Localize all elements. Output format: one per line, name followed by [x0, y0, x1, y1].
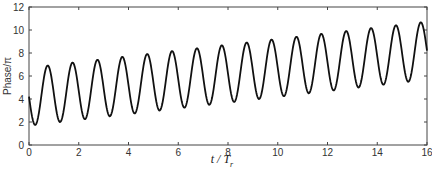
- phase-chart: 0246810121416 024681012 Phase/π t / Tr: [0, 0, 432, 173]
- x-axis-label-main: t / T: [211, 152, 232, 166]
- x-tick-label: 6: [175, 147, 181, 158]
- x-axis-label-subscript: r: [230, 160, 234, 169]
- phase-curve: [29, 22, 427, 124]
- y-tick-label: 12: [13, 2, 25, 13]
- y-tick-label: 6: [18, 71, 24, 82]
- y-axis-label: Phase/π: [2, 57, 13, 95]
- y-tick-labels: 024681012: [13, 2, 25, 151]
- x-tick-label: 2: [76, 147, 82, 158]
- y-tick-label: 10: [13, 25, 25, 36]
- x-tick-label: 14: [372, 147, 384, 158]
- x-tick-label: 4: [126, 147, 132, 158]
- y-tick-label: 2: [18, 117, 24, 128]
- y-tick-label: 4: [18, 94, 24, 105]
- x-tick-label: 10: [272, 147, 284, 158]
- y-tick-label: 0: [18, 140, 24, 151]
- x-tick-label: 16: [421, 147, 432, 158]
- x-tick-label: 12: [322, 147, 334, 158]
- x-tick-label: 0: [26, 147, 32, 158]
- y-tick-label: 8: [18, 48, 24, 59]
